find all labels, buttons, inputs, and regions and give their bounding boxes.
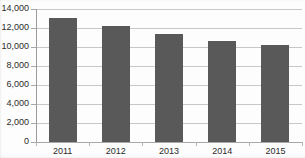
x-axis-line [36, 142, 302, 143]
x-axis-tick [302, 142, 303, 146]
y-axis-tick-label: 0 [0, 137, 29, 146]
bar-slot [89, 9, 142, 142]
bar-2013 [155, 34, 183, 142]
bar-2015 [261, 45, 289, 142]
x-axis-tick-label: 2012 [89, 146, 142, 156]
y-axis-tick-label: 8,000 [0, 61, 29, 70]
bar-2011 [49, 18, 77, 142]
bar-slot [36, 9, 89, 142]
bar-2012 [102, 26, 130, 142]
bar-slot [249, 9, 302, 142]
x-axis-tick-label: 2013 [142, 146, 195, 156]
bars-layer [36, 9, 302, 142]
y-axis-tick-label: 12,000 [0, 23, 29, 32]
x-axis-tick-label: 2014 [196, 146, 249, 156]
y-axis-tick-label: 14,000 [0, 4, 29, 13]
bar-slot [196, 9, 249, 142]
bar-slot [142, 9, 195, 142]
y-axis-tick-label: 10,000 [0, 42, 29, 51]
bar-2014 [208, 41, 236, 142]
y-axis-tick-label: 2,000 [0, 118, 29, 127]
bar-chart: 02,0004,0006,0008,00010,00012,00014,000 … [0, 0, 305, 158]
y-axis-tick-label: 4,000 [0, 99, 29, 108]
x-axis-tick-label: 2011 [36, 146, 89, 156]
y-axis-tick-label: 6,000 [0, 80, 29, 89]
x-axis-tick-label: 2015 [249, 146, 302, 156]
